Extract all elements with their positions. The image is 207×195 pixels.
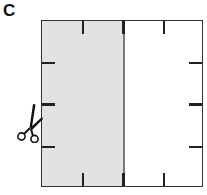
paper-sheet [41,20,203,187]
tick-right-middle [189,103,202,106]
panel-label: C [3,1,15,21]
center-fold-line [123,21,125,186]
tick-bottom-center [122,173,125,186]
tick-bottom-right [163,173,165,186]
tick-right-lower [189,146,202,148]
tick-bottom-left [82,173,84,186]
tick-right-upper [189,62,202,64]
tick-top-right [163,21,165,34]
tick-left-lower [42,146,55,148]
scissors-icon [16,103,44,143]
tick-top-center [122,21,125,34]
tick-left-upper [42,62,55,64]
tick-top-left [82,21,84,34]
